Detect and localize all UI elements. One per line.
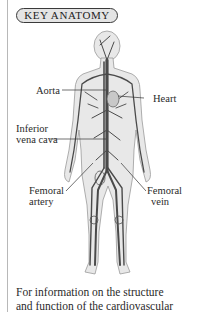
key-anatomy-badge: KEY ANATOMY <box>16 8 118 23</box>
label-femoral-vein-line1: Femoral <box>147 185 182 196</box>
label-femoral-vein-line2: vein <box>151 196 169 207</box>
caption-line-2: and function of the cardiovascular <box>16 299 206 312</box>
anatomy-figure: Aorta Heart Inferior vena cava Femoral a… <box>0 26 206 276</box>
body-circulation-illustration <box>0 26 206 276</box>
label-heart: Heart <box>153 93 176 104</box>
caption-text: For information on the structure and fun… <box>16 285 206 312</box>
label-inferior-vena-cava-line2: vena cava <box>16 134 58 145</box>
label-inferior-vena-cava-line1: Inferior <box>16 123 48 134</box>
label-aorta: Aorta <box>36 85 60 96</box>
label-femoral-artery-line1: Femoral <box>29 185 64 196</box>
caption-line-1: For information on the structure <box>16 285 206 299</box>
label-femoral-artery-line2: artery <box>29 196 53 207</box>
